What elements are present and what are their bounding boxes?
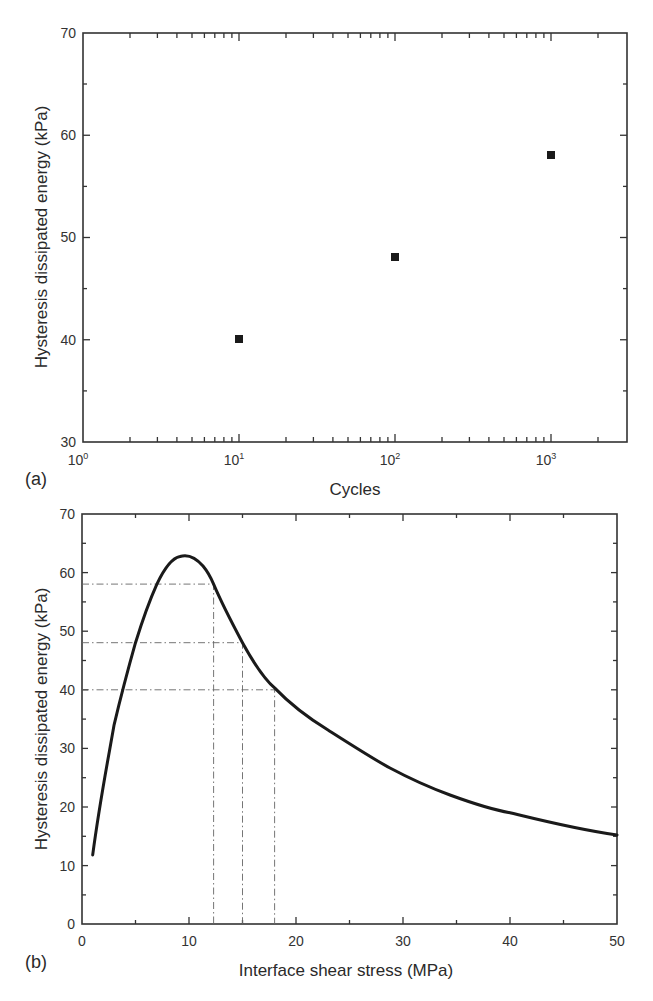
svg-text:50: 50 <box>609 933 625 949</box>
svg-text:70: 70 <box>59 506 75 522</box>
svg-text:10: 10 <box>59 858 75 874</box>
data-point <box>235 335 243 343</box>
chart-a-x-axis-title: Cycles <box>329 480 380 499</box>
svg-text:30: 30 <box>59 740 75 756</box>
guide-40 <box>82 690 275 924</box>
svg-text:60: 60 <box>60 127 76 143</box>
chart-a-x-tick-labels: 100 101 102 103 <box>68 451 557 468</box>
svg-text:50: 50 <box>59 623 75 639</box>
guide-48 <box>82 643 243 924</box>
chart-b-x-axis-title: Interface shear stress (MPa) <box>239 961 453 980</box>
chart-a-y-ticks <box>83 84 627 391</box>
svg-text:100: 100 <box>68 451 89 468</box>
svg-text:20: 20 <box>288 933 304 949</box>
data-point <box>391 253 399 261</box>
chart-b-x-tick-labels: 0 10 20 30 40 50 <box>78 933 625 949</box>
chart-b-curve <box>93 556 617 855</box>
svg-text:40: 40 <box>60 332 76 348</box>
svg-text:30: 30 <box>60 434 76 450</box>
svg-text:101: 101 <box>224 451 245 468</box>
chart-a-plot-frame <box>83 33 627 442</box>
chart-b-guide-lines <box>82 584 275 924</box>
guide-58 <box>82 584 214 924</box>
chart-a-series <box>235 151 555 343</box>
chart-a-x-ticks <box>130 33 598 442</box>
panel-label-b: (b) <box>25 952 47 972</box>
chart-a: 70 60 50 40 30 100 101 102 103 Hysteresi… <box>25 25 627 499</box>
svg-text:102: 102 <box>380 451 401 468</box>
svg-text:20: 20 <box>59 799 75 815</box>
svg-text:0: 0 <box>67 916 75 932</box>
svg-text:30: 30 <box>395 933 411 949</box>
figure: 70 60 50 40 30 100 101 102 103 Hysteresi… <box>0 0 653 1001</box>
svg-text:60: 60 <box>59 565 75 581</box>
svg-text:0: 0 <box>78 933 86 949</box>
chart-a-y-tick-labels: 70 60 50 40 30 <box>60 25 76 450</box>
svg-text:50: 50 <box>60 229 76 245</box>
svg-text:70: 70 <box>60 25 76 41</box>
svg-text:40: 40 <box>59 682 75 698</box>
svg-text:103: 103 <box>536 451 557 468</box>
panel-label-a: (a) <box>25 469 47 489</box>
data-point <box>547 151 555 159</box>
svg-text:10: 10 <box>181 933 197 949</box>
chart-b: 70 60 50 40 30 20 10 0 0 10 20 30 40 50 … <box>25 506 625 980</box>
chart-b-x-ticks <box>136 514 564 924</box>
chart-b-y-axis-title: Hysteresis dissipated energy (kPa) <box>32 588 51 851</box>
chart-b-y-ticks <box>82 543 617 895</box>
svg-text:40: 40 <box>502 933 518 949</box>
chart-b-y-tick-labels: 70 60 50 40 30 20 10 0 <box>59 506 75 932</box>
chart-a-y-axis-title: Hysteresis dissipated energy (kPa) <box>32 106 51 369</box>
